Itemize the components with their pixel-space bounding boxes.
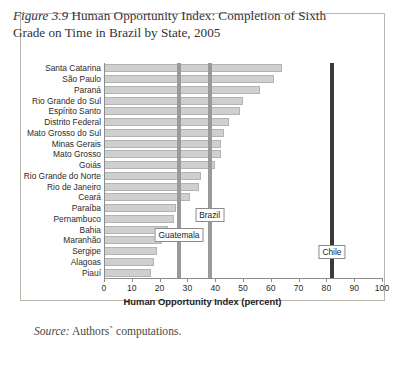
x-tick-label: 40 <box>210 283 220 293</box>
bar <box>104 75 274 83</box>
x-axis-title: Human Opportunity Index (percent) <box>0 296 405 307</box>
x-tick <box>354 278 355 282</box>
bar <box>104 269 151 277</box>
category-label: Sergipe <box>72 246 101 256</box>
category-label: Goiás <box>79 160 101 170</box>
category-label: São Paulo <box>62 74 101 84</box>
x-tick <box>326 278 327 282</box>
bar <box>104 86 260 94</box>
source-text: Authors` computations. <box>72 325 181 338</box>
bar <box>104 97 243 105</box>
x-tick <box>243 278 244 282</box>
bar <box>104 215 174 223</box>
bar <box>104 150 221 158</box>
source-label: Source: <box>34 325 70 338</box>
bar <box>104 140 221 148</box>
category-label: Rio Grande do Norte <box>24 171 101 181</box>
category-label: Pernambuco <box>54 214 102 224</box>
category-label: Santa Catarina <box>45 63 101 73</box>
x-tick-label: 0 <box>102 283 107 293</box>
reference-line-brazil <box>208 63 212 278</box>
reference-label-brazil: Brazil <box>195 208 224 222</box>
x-tick <box>132 278 133 282</box>
x-tick-label: 100 <box>375 283 389 293</box>
category-label: Distrito Federal <box>44 117 101 127</box>
category-label: Alagoas <box>71 257 101 267</box>
x-tick <box>382 278 383 282</box>
source-note: Source: Authors` computations. <box>34 325 181 338</box>
x-tick <box>271 278 272 282</box>
bar <box>104 172 201 180</box>
bar <box>104 183 199 191</box>
category-label: Ceará <box>78 192 101 202</box>
x-tick-label: 60 <box>266 283 276 293</box>
category-label: Mato Grosso <box>53 149 101 159</box>
category-label: Piauí <box>82 268 101 278</box>
bar <box>104 204 176 212</box>
category-label: Paraíba <box>72 203 101 213</box>
reference-label-chile: Chile <box>318 245 345 259</box>
category-axis-labels: Santa CatarinaSão PauloParanáRio Grande … <box>0 0 101 215</box>
category-label: Bahia <box>80 225 101 235</box>
x-tick <box>299 278 300 282</box>
bar <box>104 129 224 137</box>
bar <box>104 161 215 169</box>
category-label: Mato Grosso do Sul <box>27 128 101 138</box>
x-tick-label: 50 <box>238 283 248 293</box>
x-tick-label: 10 <box>127 283 137 293</box>
category-label: Espírito Santo <box>48 106 101 116</box>
category-label: Maranhão <box>63 235 101 245</box>
category-label: Minas Gerais <box>52 139 101 149</box>
bar <box>104 64 282 72</box>
bar <box>104 247 157 255</box>
x-tick <box>160 278 161 282</box>
bar <box>104 107 240 115</box>
category-label: Rio de Janeiro <box>47 182 101 192</box>
x-tick-label: 80 <box>322 283 332 293</box>
y-axis-line <box>104 63 105 278</box>
x-tick <box>187 278 188 282</box>
x-tick <box>104 278 105 282</box>
x-tick-label: 70 <box>294 283 304 293</box>
x-tick-label: 90 <box>349 283 359 293</box>
category-label: Rio Grande do Sul <box>32 96 101 106</box>
reference-line-guatemala <box>177 63 181 278</box>
reference-label-guatemala: Guatemala <box>155 228 204 242</box>
x-tick <box>215 278 216 282</box>
x-tick-label: 20 <box>155 283 165 293</box>
x-tick-label: 30 <box>183 283 193 293</box>
category-label: Paraná <box>74 85 101 95</box>
bar <box>104 258 154 266</box>
chart-plot-area: Santa CatarinaSão PauloParanáRio Grande … <box>0 0 405 371</box>
